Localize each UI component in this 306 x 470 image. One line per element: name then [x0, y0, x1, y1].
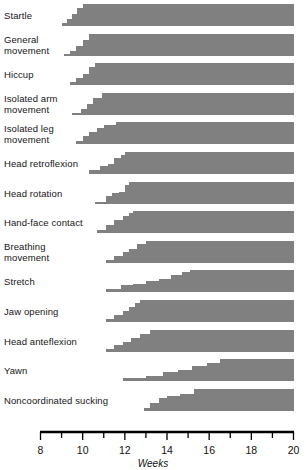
- chart-plot-area: StartleGeneral movementHiccupIsolated ar…: [0, 0, 306, 424]
- bar-7: [0, 211, 306, 233]
- x-axis: 8101214161820Weeks: [0, 424, 306, 470]
- bar-12: [0, 359, 306, 381]
- bar-1: [0, 34, 306, 56]
- x-tick-label-18: 18: [245, 444, 257, 456]
- bar-0: [0, 4, 306, 26]
- x-tick-label-20: 20: [288, 444, 300, 456]
- x-tick-label-8: 8: [38, 444, 44, 456]
- fetal-movement-chart: StartleGeneral movementHiccupIsolated ar…: [0, 0, 306, 470]
- x-tick-label-14: 14: [161, 444, 173, 456]
- bar-11: [0, 330, 306, 352]
- x-axis-line: [0, 430, 306, 450]
- x-axis-title: Weeks: [0, 458, 306, 469]
- x-tick-label-10: 10: [77, 444, 89, 456]
- bar-10: [0, 300, 306, 322]
- bar-13: [0, 389, 306, 411]
- bar-4: [0, 122, 306, 144]
- bar-5: [0, 152, 306, 174]
- bar-8: [0, 241, 306, 263]
- bar-2: [0, 63, 306, 85]
- bar-9: [0, 270, 306, 292]
- bar-6: [0, 182, 306, 204]
- x-tick-label-16: 16: [203, 444, 215, 456]
- x-tick-label-12: 12: [119, 444, 131, 456]
- bar-3: [0, 93, 306, 115]
